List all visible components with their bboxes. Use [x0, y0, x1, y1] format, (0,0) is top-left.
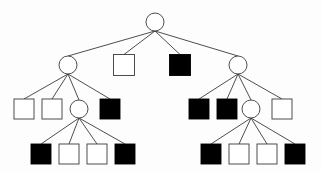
tree-node-circle[interactable]: [70, 100, 88, 118]
tree-node-square-white[interactable]: [42, 99, 62, 119]
tree-edge: [251, 118, 295, 144]
tree-node-square-white[interactable]: [272, 99, 292, 119]
tree-edge: [68, 74, 110, 99]
tree-node-square-black[interactable]: [201, 144, 221, 164]
tree-node-circle[interactable]: [229, 56, 247, 74]
tree-diagram-svg: [0, 0, 321, 173]
tree-edge: [68, 74, 79, 100]
tree-node-square-black[interactable]: [189, 99, 209, 119]
tree-node-square-black[interactable]: [115, 144, 135, 164]
tree-node-square-black[interactable]: [31, 144, 51, 164]
tree-node-square-black[interactable]: [100, 99, 120, 119]
tree-edge: [68, 31, 155, 56]
tree-node-circle[interactable]: [59, 56, 77, 74]
tree-edge: [124, 31, 155, 55]
tree-edge: [79, 118, 125, 144]
tree-diagram-canvas: [0, 0, 321, 173]
edge-layer: [24, 31, 295, 144]
tree-node-square-black[interactable]: [170, 55, 191, 76]
tree-node-square-black[interactable]: [285, 144, 305, 164]
tree-node-circle[interactable]: [242, 100, 260, 118]
tree-edge: [155, 31, 238, 56]
tree-node-square-white[interactable]: [14, 99, 34, 119]
tree-node-square-white[interactable]: [257, 144, 277, 164]
tree-edge: [52, 74, 68, 99]
tree-node-square-white[interactable]: [59, 144, 79, 164]
tree-node-square-white[interactable]: [229, 144, 249, 164]
tree-edge: [79, 118, 97, 144]
tree-node-square-white[interactable]: [87, 144, 107, 164]
tree-edge: [24, 74, 68, 99]
tree-node-square-black[interactable]: [217, 99, 237, 119]
tree-node-circle[interactable]: [146, 13, 164, 31]
tree-edge: [41, 118, 79, 144]
tree-edge: [251, 118, 267, 144]
tree-node-square-white[interactable]: [114, 55, 135, 76]
